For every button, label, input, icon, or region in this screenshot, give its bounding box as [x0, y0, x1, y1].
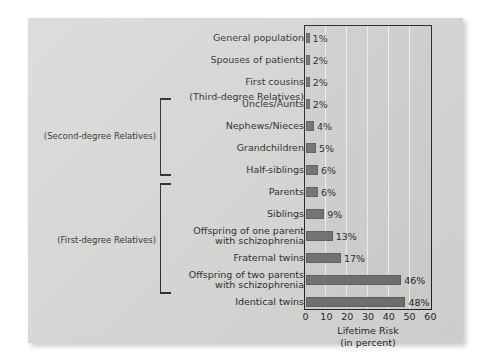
bar-value-label: 48% — [408, 291, 429, 313]
table-row: General population1% — [28, 27, 463, 49]
bracket-second-degree — [160, 98, 171, 176]
bar — [306, 55, 310, 65]
x-axis-ticks: 0102030405060 — [28, 311, 463, 325]
chart-card: General population1%Spouses of patients2… — [28, 18, 463, 343]
category-label: General population — [74, 27, 304, 49]
bar-value-label: 17% — [344, 247, 365, 269]
table-row: Offspring of two parentswith schizophren… — [28, 269, 463, 291]
category-label-line1: Siblings — [267, 209, 304, 220]
x-tick-label: 20 — [341, 311, 353, 322]
bar-value-label: 1% — [313, 27, 328, 49]
group-label-second-degree: (Second-degree Relatives) — [30, 131, 156, 141]
bar-value-label: 2% — [313, 49, 328, 71]
x-tick-label: 30 — [362, 311, 374, 322]
x-axis-title-line2: (in percent) — [304, 337, 432, 349]
category-label-line1: General population — [213, 33, 304, 44]
bar — [306, 77, 310, 87]
bar-value-label: 6% — [321, 159, 336, 181]
category-label: Fraternal twins — [74, 247, 304, 269]
bar-value-label: 5% — [319, 137, 334, 159]
bar-value-label: 2% — [313, 71, 328, 93]
category-label-line1: Parents — [269, 187, 304, 198]
bracket-first-degree — [160, 183, 171, 294]
category-label-line2: with schizophrenia — [215, 280, 304, 291]
table-row: First cousins2% — [28, 71, 463, 93]
category-label: Offspring of two parentswith schizophren… — [74, 269, 304, 291]
table-row: Spouses of patients2% — [28, 49, 463, 71]
category-label-line2: with schizophrenia — [215, 236, 304, 247]
x-tick-label: 50 — [404, 311, 416, 322]
bar — [306, 187, 318, 197]
bar — [306, 165, 318, 175]
category-label: First cousins — [74, 71, 304, 93]
table-row: Siblings9% — [28, 203, 463, 225]
bar — [306, 209, 325, 219]
bar-value-label: 2% — [313, 93, 328, 115]
bar-value-label: 4% — [317, 115, 332, 137]
category-label: Spouses of patients — [74, 49, 304, 71]
bar — [306, 143, 316, 153]
x-tick-label: 40 — [383, 311, 395, 322]
table-row: Fraternal twins17% — [28, 247, 463, 269]
bar-rows: General population1%Spouses of patients2… — [28, 18, 463, 343]
bar — [306, 275, 402, 285]
table-row: Half-siblings6% — [28, 159, 463, 181]
third-degree-note: (Third-degree Relatives) — [189, 91, 304, 102]
x-axis-title-line1: Lifetime Risk — [304, 325, 432, 337]
table-row: Identical twins48% — [28, 291, 463, 313]
category-label-line1: Fraternal twins — [234, 253, 304, 264]
bar — [306, 253, 341, 263]
x-tick-label: 0 — [303, 311, 309, 322]
category-label-line1: Identical twins — [235, 297, 304, 308]
bar — [306, 231, 333, 241]
category-label: Parents — [74, 181, 304, 203]
bar-value-label: 9% — [327, 203, 342, 225]
category-label: Half-siblings — [74, 159, 304, 181]
group-label-first-degree: (First-degree Relatives) — [30, 235, 156, 245]
bar — [306, 33, 310, 43]
category-label-line1: First cousins — [245, 77, 304, 88]
category-label-line1: Grandchildren — [237, 143, 304, 154]
bar-value-label: 46% — [404, 269, 425, 291]
category-label-line1: Nephews/Nieces — [226, 121, 304, 132]
bar — [306, 99, 310, 109]
x-tick-label: 10 — [320, 311, 332, 322]
table-row: Parents6% — [28, 181, 463, 203]
category-label-line1: Spouses of patients — [210, 55, 304, 66]
bar — [306, 121, 314, 131]
x-tick-label: 60 — [424, 311, 436, 322]
x-axis-title: Lifetime Risk (in percent) — [304, 325, 432, 348]
bar-value-label: 6% — [321, 181, 336, 203]
bar-value-label: 13% — [336, 225, 357, 247]
bar — [306, 297, 406, 307]
category-label: Siblings — [74, 203, 304, 225]
category-label: Identical twins — [74, 291, 304, 313]
category-label-line1: Half-siblings — [246, 165, 304, 176]
